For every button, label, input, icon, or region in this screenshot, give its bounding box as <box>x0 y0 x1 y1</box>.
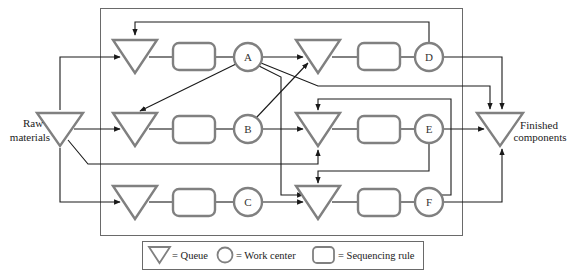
sequencing-rule-row2-left-icon <box>173 116 215 143</box>
sequencing-rule-row1-left-icon <box>173 43 215 70</box>
legend-sequencing-rule-label: = Sequencing rule <box>338 250 415 261</box>
work-center-b-label: B <box>244 123 251 135</box>
legend: = Queue = Work center = Sequencing rule <box>143 242 424 270</box>
finished-components-label-line2: components <box>513 131 566 143</box>
flow-d-to-finished <box>443 57 502 109</box>
work-center-d-label: D <box>425 51 433 63</box>
legend-queue-label: = Queue <box>172 250 208 261</box>
work-center-e-label: E <box>426 123 433 135</box>
legend-sequencing-rule-icon <box>313 247 334 263</box>
sequencing-rule-row3-right-icon <box>358 189 400 216</box>
legend-work-center-icon <box>218 248 233 263</box>
sequencing-rule-row1-right-icon <box>358 43 400 70</box>
work-center-a-label: A <box>244 51 252 63</box>
sequencing-rule-row3-left-icon <box>173 189 215 216</box>
flow-a-to-queue-f <box>259 66 303 195</box>
flow-d-to-queue-a <box>135 22 429 43</box>
job-shop-diagram: A B C D E F Raw materials Finished compo… <box>0 0 573 278</box>
raw-materials-label-line2: materials <box>10 131 50 143</box>
flow-f-to-finished <box>443 149 502 202</box>
finished-components-label-line1: Finished <box>520 119 558 131</box>
flow-raw-to-queue-3 <box>60 148 120 202</box>
work-center-c-label: C <box>244 196 251 208</box>
flow-e-to-queue-f <box>318 143 429 183</box>
sequencing-rule-row2-right-icon <box>358 116 400 143</box>
legend-work-center-label: = Work center <box>236 250 296 261</box>
raw-materials-label-line1: Raw <box>23 117 43 129</box>
work-center-f-label: F <box>426 196 432 208</box>
flow-raw-to-queue-1 <box>60 57 120 110</box>
